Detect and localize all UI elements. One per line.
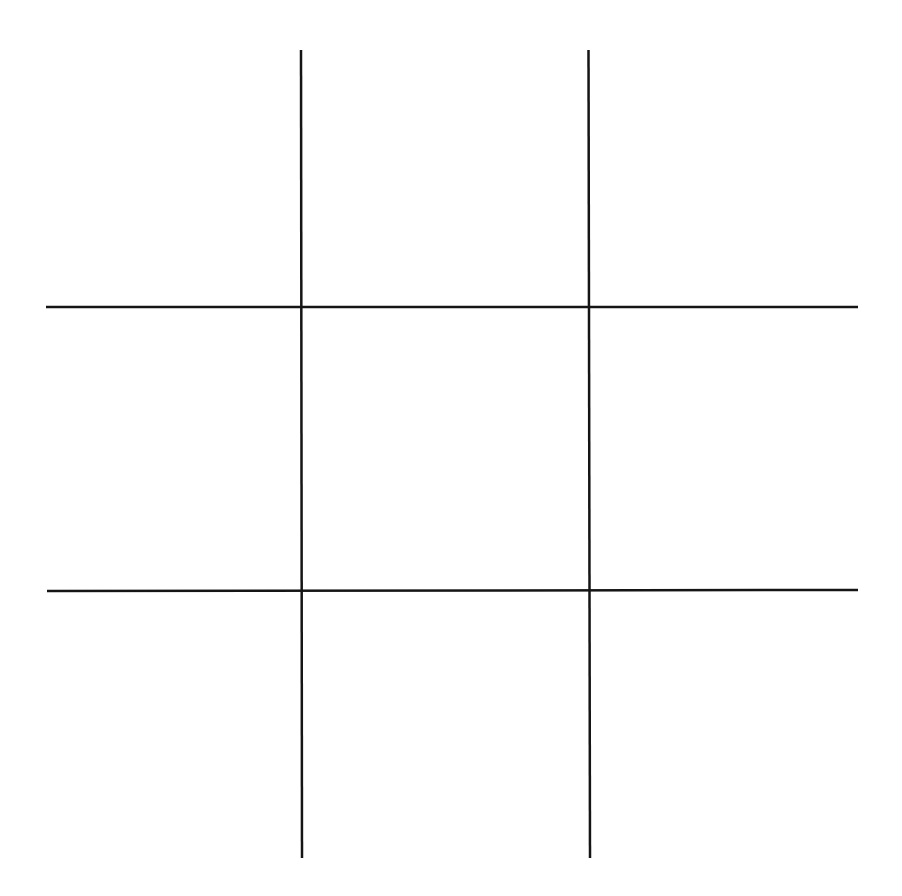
cell-r1-c2[interactable] xyxy=(591,309,858,590)
cell-r0-c1[interactable] xyxy=(303,50,587,306)
grid-line-horizontal-bottom xyxy=(47,590,858,591)
tic-tac-toe-board xyxy=(0,0,902,896)
cell-r2-c0[interactable] xyxy=(46,593,301,858)
cell-r2-c1[interactable] xyxy=(304,593,589,858)
cell-r2-c2[interactable] xyxy=(592,593,858,858)
cell-r0-c0[interactable] xyxy=(46,50,300,306)
cell-r1-c1[interactable] xyxy=(303,309,588,590)
cell-r1-c0[interactable] xyxy=(46,309,300,590)
grid-line-vertical-left xyxy=(301,50,302,858)
cell-r0-c2[interactable] xyxy=(590,50,858,306)
